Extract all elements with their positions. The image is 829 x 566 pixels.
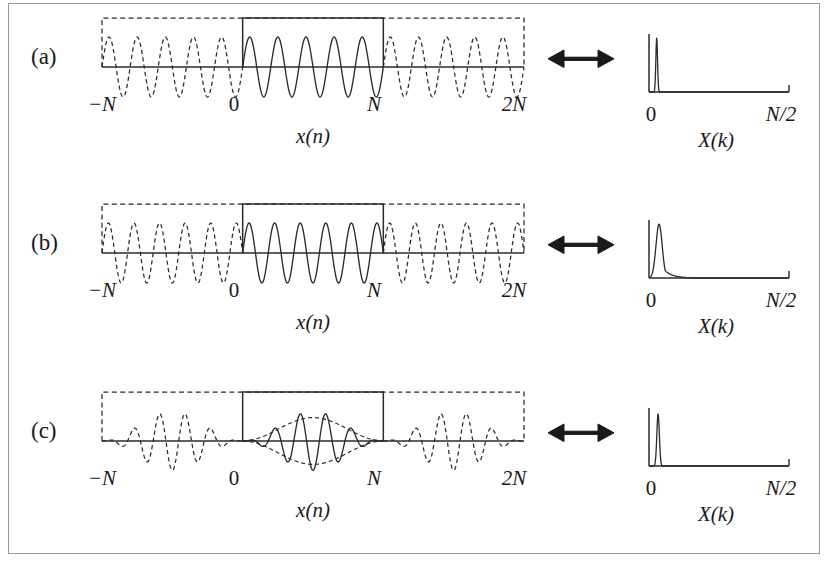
- time-caption-c: x(n): [296, 498, 330, 523]
- time-domain-plot-a: [87, 6, 539, 136]
- analysis-window-box-b: [243, 204, 384, 254]
- panel-label-c: (c): [31, 418, 57, 444]
- spec-tick-b-0: 0: [646, 288, 657, 313]
- time-caption-b: x(n): [296, 310, 330, 335]
- figure-row-c: (c) −N 0 N 2N x(n) 0 N/2: [9, 380, 821, 555]
- analysis-window-box-a: [243, 18, 384, 68]
- spec-tick-c-1: N/2: [766, 476, 796, 501]
- figure-row-b: (b) −N 0 N 2N x(n) 0 N/2: [9, 192, 821, 367]
- spectrum-axis-labels-b: 0 N/2: [629, 288, 814, 316]
- spectrum-caption-c: X(k): [698, 502, 734, 527]
- spec-tick-a-1: N/2: [766, 102, 796, 127]
- spectrum-trace-a: [649, 38, 789, 92]
- equivalence-arrow-a: [546, 44, 616, 74]
- spectrum-plot-c: [629, 394, 804, 478]
- equivalence-arrow-b: [546, 230, 616, 260]
- hann-envelope-c-upper: [243, 418, 384, 441]
- spectrum-axis-labels-a: 0 N/2: [629, 102, 814, 130]
- time-domain-plot-c: [87, 380, 539, 510]
- spec-tick-b-1: N/2: [766, 288, 796, 313]
- figure-row-a: (a) −N 0 N 2N x(n) 0 N/2: [9, 6, 821, 181]
- panel-label-a: (a): [31, 44, 57, 70]
- waveform-extension-c: [102, 414, 243, 471]
- waveform-extension-c: [383, 414, 524, 471]
- hann-envelope-c-lower: [243, 441, 384, 464]
- figure-frame: (a) −N 0 N 2N x(n) 0 N/2: [8, 3, 820, 554]
- equivalence-arrow-c: [546, 418, 616, 448]
- periodic-extension-box-a: [102, 18, 524, 67]
- periodic-extension-box-c: [102, 392, 524, 441]
- analysis-window-box-c: [243, 392, 384, 442]
- spectrum-axis-labels-c: 0 N/2: [629, 476, 814, 504]
- waveform-windowed-c: [243, 414, 384, 471]
- spectrum-plot-b: [629, 206, 804, 290]
- spec-tick-c-0: 0: [646, 476, 657, 501]
- spectrum-caption-b: X(k): [698, 314, 734, 339]
- panel-label-b: (b): [31, 230, 58, 256]
- time-caption-a: x(n): [296, 124, 330, 149]
- time-domain-plot-b: [87, 192, 539, 322]
- spectrum-trace-b: [649, 224, 789, 278]
- spectrum-trace-c: [649, 414, 789, 466]
- spec-tick-a-0: 0: [646, 102, 657, 127]
- spectrum-plot-a: [629, 20, 804, 104]
- spectrum-caption-a: X(k): [698, 128, 734, 153]
